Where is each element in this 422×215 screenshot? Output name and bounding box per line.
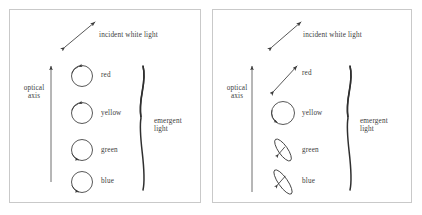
emergent-light-line2-right: light xyxy=(360,125,374,133)
optical-axis-label-right: optical axis xyxy=(217,84,257,101)
figure-root: incident white light optical axis red ye… xyxy=(0,0,422,215)
incident-white-light-label-left: incident white light xyxy=(99,31,158,39)
component-label-blue-left: blue xyxy=(101,177,114,185)
emergent-light-line1-right: emergent xyxy=(360,117,388,125)
component-label-green-right: green xyxy=(302,146,319,154)
emergent-light-label-right: emergent light xyxy=(360,117,406,134)
component-label-yellow-right: yellow xyxy=(302,109,322,117)
optical-axis-label-left: optical axis xyxy=(14,84,54,101)
optical-axis-label-line2: axis xyxy=(28,92,40,100)
emergent-light-line1: emergent xyxy=(154,117,182,125)
optical-axis-label-line2-right: axis xyxy=(231,92,243,100)
component-label-red-right: red xyxy=(302,69,312,77)
component-label-blue-right: blue xyxy=(302,177,315,185)
incident-white-light-label-right: incident white light xyxy=(303,31,362,39)
component-label-red-left: red xyxy=(101,71,111,79)
emergent-light-line2: light xyxy=(154,125,168,133)
optical-axis-label-line1: optical xyxy=(24,84,45,92)
optical-axis-label-line1-right: optical xyxy=(227,84,248,92)
component-label-yellow-left: yellow xyxy=(101,109,121,117)
component-label-green-left: green xyxy=(101,146,118,154)
emergent-light-label-left: emergent light xyxy=(154,117,198,134)
